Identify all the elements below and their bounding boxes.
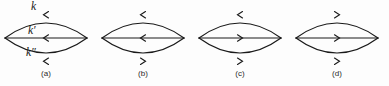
panel-caption-b: (b) [128,70,158,78]
arrowhead-top-panel-2 [238,12,243,18]
arrowhead-bottom-panel-3 [335,58,340,64]
panel-caption-d: (d) [322,70,352,78]
arrowhead-top-panel-3 [335,12,340,18]
figure-container: k k′ k″ (a) (b) (c) (d) [0,0,389,86]
arrowhead-top-panel-0 [44,12,49,18]
momentum-label-k-prime: k′ [28,25,36,37]
diagram-arrowheads-group [44,12,340,65]
arrowhead-bottom-panel-2 [238,58,243,64]
arrowhead-top-panel-1 [141,12,146,18]
panel-caption-c: (c) [225,70,255,78]
arrowhead-bottom-panel-0 [44,58,49,64]
arrowhead-bottom-panel-1 [141,58,146,64]
momentum-label-k: k [31,1,36,13]
diagram-lines-group [5,23,378,53]
momentum-label-k-doubleprime: k″ [26,47,36,59]
panel-caption-a: (a) [31,70,61,78]
